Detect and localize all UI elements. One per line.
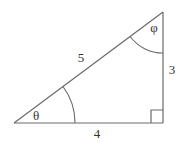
theta-angle-arc [63, 87, 75, 124]
phi-angle-arc [130, 37, 163, 54]
hypotenuse-label: 5 [78, 50, 85, 65]
phi-label: φ [150, 20, 158, 35]
right-angle-marker [151, 110, 163, 123]
right-triangle-diagram: 5 4 3 θ φ [0, 0, 183, 144]
theta-label: θ [33, 108, 39, 123]
height-label: 3 [169, 62, 176, 77]
base-label: 4 [94, 126, 101, 141]
hypotenuse-line [14, 12, 163, 123]
